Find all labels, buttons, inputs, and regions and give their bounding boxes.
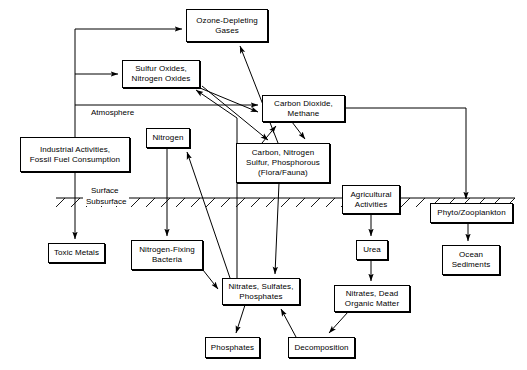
node-label: Industrial Activities, Fossil Fuel Consu… [30, 145, 120, 165]
edge-decomposition-to-nitrates [281, 309, 296, 337]
node-label: Nitrates, Dead Organic Matter [345, 289, 399, 309]
subsurface-label: Subsurface [83, 197, 129, 206]
node-label: Sulfur Oxides, Nitrogen Oxides [132, 64, 191, 84]
atmosphere-label: Atmosphere [88, 108, 137, 117]
node-toxic-metals[interactable]: Toxic Metals [48, 243, 105, 263]
node-decomposition[interactable]: Decomposition [288, 337, 355, 358]
node-agricultural-activities[interactable]: Agricultural Activities [342, 185, 400, 214]
node-urea[interactable]: Urea [356, 240, 388, 260]
edge-sulfur-to-flora [202, 86, 268, 140]
node-label: Ocean Sediments [452, 250, 491, 270]
node-phosphates[interactable]: Phosphates [205, 337, 260, 358]
node-label: Nitrogen [152, 133, 183, 143]
biogeochemical-cycle-diagram: Surface Subsurface Atmosphere Ozone-Depl… [0, 0, 527, 370]
node-label: Urea [363, 245, 381, 255]
edge-layer [0, 0, 527, 370]
node-nitrogen-fixing-bacteria[interactable]: Nitrogen-Fixing Bacteria [131, 240, 203, 270]
node-label: Phosphates [211, 343, 254, 353]
node-industrial-activities[interactable]: Industrial Activities, Fossil Fuel Consu… [20, 137, 130, 172]
edge-flora-to-nitrates [275, 183, 279, 274]
node-label: Decomposition [294, 343, 348, 353]
node-label: Nitrates, Sulfates, Phosphates [228, 282, 293, 302]
node-carbon-dioxide-methane[interactable]: Carbon Dioxide, Methane [262, 95, 345, 122]
node-label: Agricultural Activities [350, 190, 391, 210]
node-ocean-sediments[interactable]: Ocean Sediments [442, 245, 500, 275]
node-label: Toxic Metals [54, 248, 99, 258]
node-phyto-zooplankton[interactable]: Phyto/Zooplankton [430, 203, 513, 223]
node-flora-fauna[interactable]: Carbon, Nitrogen Sulfur, Phosphorous (Fl… [236, 143, 330, 183]
node-nitrates-sulfates-phosphates[interactable]: Nitrates, Sulfates, Phosphates [222, 278, 300, 305]
node-label: Carbon, Nitrogen Sulfur, Phosphorous (Fl… [246, 148, 320, 177]
edge-deadorganic-to-decomposition [329, 312, 348, 333]
node-label: Carbon Dioxide, Methane [274, 99, 333, 119]
node-label: Ozone-Depleting Gases [196, 16, 258, 36]
edge-nitrates-to-phosphates [236, 305, 245, 333]
edge-co2-to-flora [292, 122, 305, 139]
node-nitrates-dead-organic-matter[interactable]: Nitrates, Dead Organic Matter [334, 285, 410, 312]
surface-label: Surface [88, 186, 122, 195]
node-nitrogen[interactable]: Nitrogen [146, 128, 190, 148]
node-label: Nitrogen-Fixing Bacteria [139, 245, 195, 265]
node-label: Phyto/Zooplankton [437, 208, 505, 218]
edge-nfix-to-nitrates [203, 270, 218, 289]
edge-flora-to-co2 [262, 126, 276, 143]
node-sulfur-oxides[interactable]: Sulfur Oxides, Nitrogen Oxides [122, 60, 200, 88]
node-ozone-depleting-gases[interactable]: Ozone-Depleting Gases [186, 9, 268, 42]
